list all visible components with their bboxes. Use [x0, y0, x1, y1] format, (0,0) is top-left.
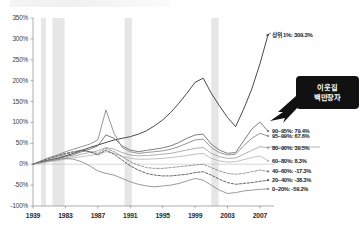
x-tick-label: 2003	[212, 212, 242, 219]
y-tick-label: -100%	[0, 202, 28, 209]
series-end-label: 40~60%: -17.3%	[272, 168, 311, 174]
callout-line-1: 이웃집	[317, 83, 337, 93]
recession-band	[52, 18, 64, 206]
series-end-label: 80~90%: 39.5%	[272, 145, 309, 151]
series-endpoint-1	[267, 130, 269, 132]
series-line-7	[33, 158, 268, 193]
callout-line-2: 백만장자	[314, 93, 341, 103]
y-tick-label: 200%	[0, 77, 28, 84]
y-tick-label: 250%	[0, 56, 28, 63]
x-tick-label: 1983	[50, 212, 80, 219]
x-tick-label: 2007	[245, 212, 275, 219]
y-tick-label: 0%	[0, 160, 28, 167]
series-end-label: 0~20%: -59.2%	[272, 186, 308, 192]
y-tick-label: 300%	[0, 35, 28, 42]
x-tick-label: 1939	[18, 212, 48, 219]
chart-root: 350%300%250%200%150%100%50%0%-50%-100% 1…	[0, 0, 363, 244]
series-end-label: 20~40%: -38.3%	[272, 177, 311, 183]
recession-band	[41, 18, 46, 206]
y-tick-label: 50%	[0, 139, 28, 146]
top-one-percent-label: 상위 1%: 309.3%	[272, 30, 312, 39]
x-tick-label: 1987	[83, 212, 113, 219]
series-endpoint-7	[267, 188, 269, 190]
series-endpoint-2	[267, 135, 269, 137]
series-endpoint-6	[267, 179, 269, 181]
x-tick-label: 1999	[180, 212, 210, 219]
y-tick-label: 350%	[0, 14, 28, 21]
recession-band	[125, 18, 132, 206]
series-line-0	[33, 35, 268, 164]
series-endpoint-4	[267, 160, 269, 162]
x-tick-label: 1995	[148, 212, 178, 219]
series-end-label: 60~80%: 8.3%	[272, 158, 306, 164]
y-tick-label: 100%	[0, 118, 28, 125]
y-tick-label: -50%	[0, 181, 28, 188]
callout-arrow	[270, 96, 299, 123]
millionaire-callout: 이웃집 백만장자	[296, 76, 359, 109]
series-end-label: 95~99%: 67.6%	[272, 133, 309, 139]
x-tick-label: 1991	[115, 212, 145, 219]
y-tick-label: 150%	[0, 98, 28, 105]
series-endpoint-5	[267, 170, 269, 172]
